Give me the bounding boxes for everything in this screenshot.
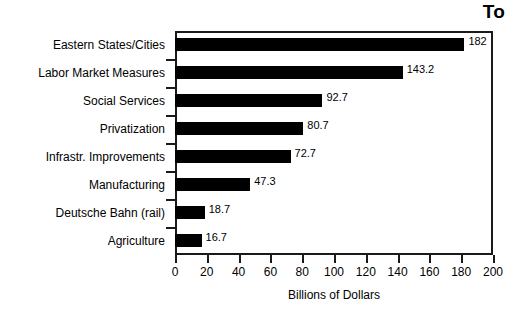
- bar: [175, 122, 303, 135]
- x-axis-tick: [270, 255, 272, 263]
- category-label: Eastern States/Cities: [53, 38, 165, 52]
- bar: [175, 66, 403, 79]
- y-axis-tick: [166, 59, 175, 61]
- bar-value-label: 72.7: [295, 147, 316, 160]
- bar-row: 143.2: [175, 59, 493, 87]
- y-axis-tick: [166, 143, 175, 145]
- x-axis-tick: [207, 255, 209, 263]
- bar-row: 92.7: [175, 87, 493, 115]
- bar: [175, 234, 202, 247]
- category-label: Infrastr. Improvements: [46, 150, 165, 164]
- bar-value-label: 143.2: [407, 63, 435, 76]
- bar-row: 72.7: [175, 143, 493, 171]
- x-axis-tick: [175, 255, 177, 263]
- x-axis-title: Billions of Dollars: [175, 288, 493, 302]
- bar-value-label: 16.7: [206, 231, 227, 244]
- bar-row: 16.7: [175, 227, 493, 255]
- y-axis-tick: [166, 115, 175, 117]
- x-axis-tick: [302, 255, 304, 263]
- x-axis-tick: [493, 255, 495, 263]
- x-axis-tick: [398, 255, 400, 263]
- x-axis-tick: [366, 255, 368, 263]
- x-axis-tick-label: 180: [451, 265, 471, 279]
- bar: [175, 38, 464, 51]
- bar-value-label: 92.7: [326, 91, 347, 104]
- bar-value-label: 182: [468, 35, 486, 48]
- bar-value-label: 47.3: [254, 175, 275, 188]
- bar-row: 18.7: [175, 199, 493, 227]
- bar: [175, 206, 205, 219]
- x-axis-tick: [429, 255, 431, 263]
- bar-row: 47.3: [175, 171, 493, 199]
- y-axis-tick: [166, 171, 175, 173]
- category-label: Deutsche Bahn (rail): [56, 206, 165, 220]
- category-label: Social Services: [83, 94, 165, 108]
- x-axis-tick-label: 60: [264, 265, 277, 279]
- bar-value-label: 80.7: [307, 119, 328, 132]
- bar: [175, 94, 322, 107]
- bar-chart-figure: To 182143.292.780.772.747.318.716.7 East…: [0, 0, 519, 323]
- x-axis-tick-label: 20: [200, 265, 213, 279]
- x-axis-tick: [239, 255, 241, 263]
- bar: [175, 178, 250, 191]
- x-axis-tick-label: 100: [324, 265, 344, 279]
- bars-layer: 182143.292.780.772.747.318.716.7: [175, 31, 493, 255]
- category-label: Labor Market Measures: [38, 66, 165, 80]
- x-axis-tick: [461, 255, 463, 263]
- bar-row: 182: [175, 31, 493, 59]
- category-label: Privatization: [100, 122, 165, 136]
- x-axis-tick-label: 140: [388, 265, 408, 279]
- x-axis-tick-label: 40: [232, 265, 245, 279]
- bar: [175, 150, 291, 163]
- category-label: Manufacturing: [89, 178, 165, 192]
- x-axis-tick: [334, 255, 336, 263]
- x-axis-tick-label: 80: [296, 265, 309, 279]
- x-axis-tick-label: 160: [419, 265, 439, 279]
- bar-value-label: 18.7: [209, 203, 230, 216]
- y-axis-tick: [166, 227, 175, 229]
- y-axis-tick: [166, 199, 175, 201]
- x-axis-tick-label: 120: [356, 265, 376, 279]
- category-label: Agriculture: [108, 234, 165, 248]
- y-axis-tick: [166, 87, 175, 89]
- x-axis-tick-label: 200: [483, 265, 503, 279]
- bar-row: 80.7: [175, 115, 493, 143]
- x-axis-tick-label: 0: [172, 265, 179, 279]
- chart-title: To: [483, 1, 505, 23]
